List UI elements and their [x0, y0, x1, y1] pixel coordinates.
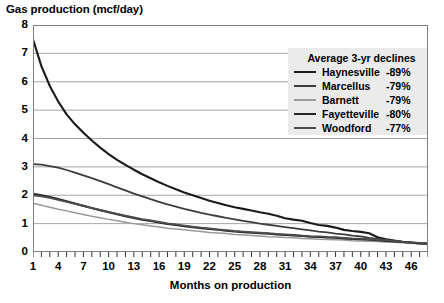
legend-item: Fayetteville-80% [288, 107, 427, 121]
legend-series-decline: -79% [386, 80, 411, 92]
legend-title: Average 3-yr declines [288, 52, 427, 65]
x-axis-tick-label: 46 [397, 261, 425, 272]
y-axis-tick-label: 4 [2, 133, 28, 144]
x-axis-tick-label: 31 [271, 261, 299, 272]
legend-series-name: Marcellus [322, 80, 386, 92]
x-axis-tick-label: 28 [246, 261, 274, 272]
x-axis-title: Months on production [33, 279, 428, 291]
x-axis-tick-label: 34 [296, 261, 324, 272]
x-axis-tick-label: 10 [95, 261, 123, 272]
legend-line-swatch-icon [294, 99, 316, 101]
legend-series-name: Haynesville [322, 66, 386, 78]
y-axis-tick-label: 7 [2, 47, 28, 58]
x-axis-ticks [33, 252, 428, 259]
x-axis-tick-label: 16 [145, 261, 173, 272]
legend-item: Barnett-79% [288, 93, 427, 107]
x-axis-tick-label: 25 [221, 261, 249, 272]
legend-series-name: Woodford [322, 122, 386, 134]
legend-item: Marcellus-79% [288, 79, 427, 93]
legend-line-swatch-icon [294, 85, 316, 87]
y-axis-tick-label: 2 [2, 189, 28, 200]
legend-item: Woodford-77% [288, 121, 427, 135]
y-axis-tick-label: 1 [2, 218, 28, 229]
legend-item: Haynesville-89% [288, 65, 427, 79]
y-axis-tick-label: 6 [2, 76, 28, 87]
legend-entries: Haynesville-89%Marcellus-79%Barnett-79%F… [288, 65, 427, 135]
x-axis-tick-label: 7 [69, 261, 97, 272]
x-axis-tick-label: 1 [19, 261, 47, 272]
y-axis-tick-label: 5 [2, 104, 28, 115]
x-axis-tick-label: 4 [44, 261, 72, 272]
legend-line-swatch-icon [294, 113, 316, 115]
legend-line-swatch-icon [294, 127, 316, 129]
legend-series-decline: -77% [386, 122, 411, 134]
legend-series-name: Fayetteville [322, 108, 386, 120]
legend: Average 3-yr declines Haynesville-89%Mar… [288, 48, 427, 135]
legend-series-decline: -79% [386, 94, 411, 106]
x-axis-tick-label: 13 [120, 261, 148, 272]
gas-production-chart: Gas production (mcf/day) 012345678 14710… [0, 0, 444, 303]
x-axis-tick-label: 22 [195, 261, 223, 272]
chart-title: Gas production (mcf/day) [6, 3, 143, 15]
x-axis-tick-label: 37 [322, 261, 350, 272]
legend-line-swatch-icon [294, 71, 316, 73]
legend-series-decline: -80% [386, 108, 411, 120]
y-axis-tick-label: 3 [2, 161, 28, 172]
legend-series-name: Barnett [322, 94, 386, 106]
x-axis-tick-label: 19 [170, 261, 198, 272]
x-axis-tick-label: 43 [372, 261, 400, 272]
y-axis-tick-label: 8 [2, 19, 28, 30]
x-axis-tick-label: 40 [347, 261, 375, 272]
y-axis-tick-label: 0 [2, 246, 28, 257]
legend-series-decline: -89% [386, 66, 411, 78]
